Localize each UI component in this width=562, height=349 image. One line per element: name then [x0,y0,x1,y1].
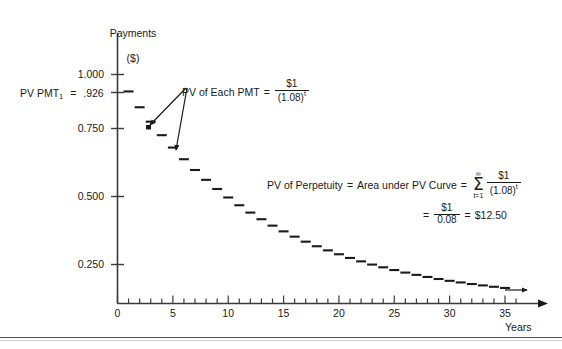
y-axis-title: Payments ($) [88,14,178,64]
pv-each-pmt-fraction: $1 (1.08)t [275,79,309,104]
pv-perpetuity-figure: Payments ($) 1.000 0.750 0.500 0.250 PV … [0,0,562,349]
pv-perpetuity-line-1: PV of Perpetuity = Area under PV Curve =… [267,170,522,199]
pv-pmt1-emphasis-marker [146,125,151,130]
pv-pmt1-callout: PV PMT1 = .926 [20,87,104,99]
x-tick-label-25: 25 [381,308,407,319]
pv-perpetuity-denominator-1: (1.08)t [487,182,521,196]
pv-perpetuity-numerator-1: $1 [495,171,512,182]
pv-perpetuity-label: PV of Perpetuity [267,179,343,191]
pv-each-pmt-base: (1.08) [278,92,304,103]
x-tick-label-5: 5 [160,308,186,319]
pv-perpetuity-middle: Area under PV Curve [357,179,457,191]
pv-perpetuity-numerator-2: $1 [438,203,455,214]
x-axis-ticks [118,296,517,304]
pv-perpetuity-line-2: = $1 0.08 = $12.50 [419,203,522,226]
pv-perpetuity-annotation: PV of Perpetuity = Area under PV Curve =… [267,170,522,226]
summation-operator: ∞ Σ t=1 [473,170,484,199]
x-tick-label-0: 0 [105,308,131,319]
summation-lower-limit: t=1 [473,192,483,199]
pv-pmt1-prefix: PV PMT [20,87,59,99]
x-tick-label-15: 15 [271,308,297,319]
x-tick-label-20: 20 [326,308,352,319]
pv-pmt1-value: .926 [83,87,103,99]
x-axis-arrowhead [538,300,548,308]
x-axis-title: Years [505,321,555,333]
leader-arrow-left [150,88,186,125]
pv-perpetuity-denominator-2: 0.08 [434,214,459,226]
pv-pmt1-subscript: 1 [59,92,63,101]
x-tick-label-30: 30 [437,308,463,319]
pv-perpetuity-fraction-1: $1 (1.08)t [487,171,521,196]
pv-perpetuity-fraction-2: $1 0.08 [434,203,459,226]
x-tick-label-10: 10 [215,308,241,319]
y-axis-title-line2: ($) [127,52,140,64]
pv-perpetuity-equals-1: = [347,179,353,191]
pv-perpetuity-exponent-1: t [516,183,518,190]
pv-each-pmt-annotation: PV of Each PMT = $1 (1.08)t [182,79,310,104]
y-tick-label-0500: 0.500 [34,191,104,202]
y-tick-label-0750: 0.750 [34,123,104,134]
footer-rule-secondary [0,340,562,341]
pv-each-pmt-numerator: $1 [283,79,300,90]
pv-perpetuity-equals-2: = [461,179,467,191]
y-tick-label-1000: 1.000 [34,69,104,80]
pv-each-pmt-denominator: (1.08)t [275,90,309,104]
pv-perpetuity-equals-4: = [465,209,471,221]
pv-each-pmt-equals: = [264,86,270,98]
pv-pmt1-equals: = [70,87,76,99]
pv-perpetuity-equals-3: = [423,209,429,221]
pv-perpetuity-result: $12.50 [475,209,507,221]
footer-rule [0,337,562,338]
pv-perpetuity-base-1: (1.08) [490,185,516,196]
y-axis-title-line1: Payments [110,27,157,39]
pv-each-pmt-exponent: t [304,90,306,97]
pv-each-pmt-label: PV of Each PMT [182,86,260,98]
x-tick-label-35: 35 [492,308,518,319]
y-tick-label-0250: 0.250 [34,259,104,270]
summation-sigma-glyph: Σ [473,177,484,192]
